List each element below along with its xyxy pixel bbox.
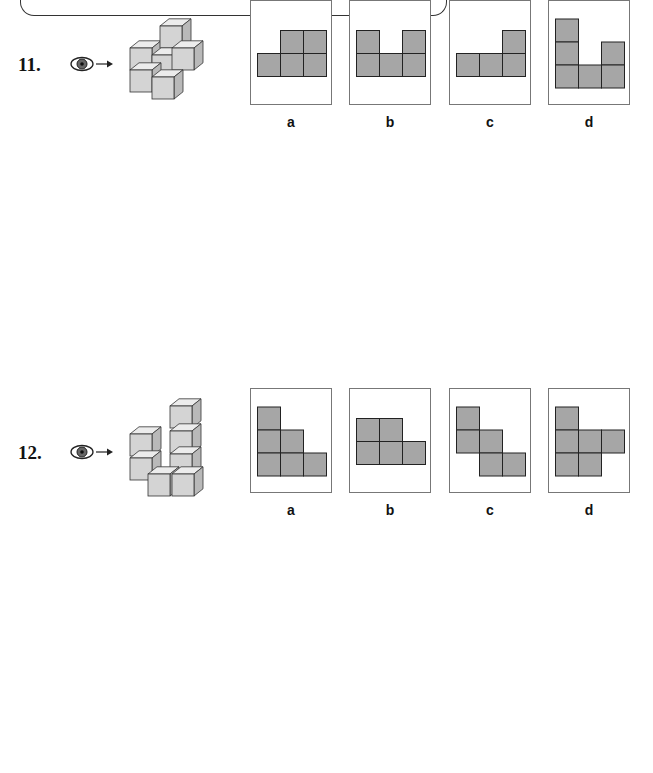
grid-cell [258,54,281,77]
view-grid [549,1,631,106]
view-grid [251,1,333,106]
eye-icon [70,56,94,72]
grid-cell [357,54,380,77]
option-c-panel[interactable] [449,0,531,105]
cube [172,41,203,70]
grid-cell [503,31,526,54]
option-d-label: d [548,114,630,130]
question-12: 12.abcd [0,194,653,374]
view-grid [450,1,532,106]
grid-cell [357,31,380,54]
option-a-panel[interactable] [250,0,332,105]
grid-cell [556,19,579,42]
grid-cell [403,54,426,77]
option-b-panel[interactable] [349,0,431,105]
grid-cell [602,42,625,65]
cube-figure [110,8,230,118]
grid-cell [281,54,304,77]
grid-cell [503,54,526,77]
grid-cell [579,65,602,88]
view-grid [350,1,432,106]
grid-cell [281,31,304,54]
option-d-panel[interactable] [548,0,630,105]
question-11: 11.abcd [0,0,653,180]
option-a-label: a [250,114,332,130]
grid-cell [380,54,403,77]
grid-cell [556,65,579,88]
grid-cell [556,42,579,65]
grid-cell [403,31,426,54]
question-13: 13.abcd [0,388,653,568]
grid-cell [457,54,480,77]
grid-cell [602,65,625,88]
grid-cell [304,54,327,77]
question-14: 14.abcd [0,582,653,762]
grid-cell [304,31,327,54]
cube [152,70,183,99]
question-number: 11. [18,54,41,76]
option-c-label: c [449,114,531,130]
grid-cell [480,54,503,77]
option-b-label: b [349,114,431,130]
